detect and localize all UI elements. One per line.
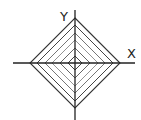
y-axis-label: Y [59, 9, 68, 24]
x-axis-label: X [127, 46, 136, 61]
concentric-diamonds-diagram: X Y [0, 0, 141, 120]
